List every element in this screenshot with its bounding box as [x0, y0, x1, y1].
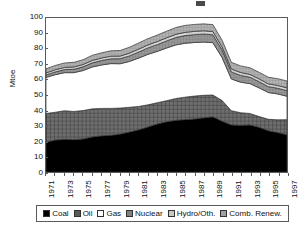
legend-label: Oil	[83, 210, 93, 218]
x-tick-mark	[213, 173, 214, 176]
x-tick-label: 1993	[254, 180, 262, 198]
x-tick-label: 1975	[85, 180, 93, 198]
x-tick-label: 1991	[235, 180, 243, 198]
x-tick-label: 1995	[272, 180, 280, 198]
x-tick-mark	[279, 173, 280, 176]
legend-swatch-icon	[97, 210, 104, 217]
legend-swatch-icon	[74, 210, 81, 217]
x-tick-mark	[120, 173, 121, 176]
legend-label: Gas	[106, 210, 121, 218]
x-tick-label: 1983	[160, 180, 168, 198]
y-tick-mark	[45, 157, 48, 158]
x-tick-label: 1979	[123, 180, 131, 198]
x-tick-mark	[260, 173, 261, 176]
legend-item-coal[interactable]: Coal	[43, 210, 68, 218]
legend-swatch-icon	[220, 210, 227, 217]
y-tick-mark	[45, 126, 48, 127]
x-axis-tick-labels: 1971197319751977197919811983198519871989…	[0, 0, 305, 230]
legend-item-gas[interactable]: Gas	[97, 210, 121, 218]
y-tick-mark	[45, 142, 48, 143]
legend-label: Comb. Renew.	[229, 210, 281, 218]
legend-label: Coal	[52, 210, 68, 218]
legend-label: Hydro/Oth.	[177, 210, 216, 218]
x-tick-mark	[167, 173, 168, 176]
x-tick-label: 1971	[48, 180, 56, 198]
legend-item-hydro-oth[interactable]: Hydro/Oth.	[168, 210, 216, 218]
x-tick-label: 1997	[291, 180, 299, 198]
x-tick-mark	[101, 173, 102, 176]
y-tick-mark	[45, 17, 48, 18]
legend-label: Nuclear	[135, 210, 163, 218]
x-tick-mark	[251, 173, 252, 176]
x-tick-mark	[73, 173, 74, 176]
chart-legend: CoalOilGasNuclearHydro/Oth.Comb. Renew.	[36, 205, 289, 222]
x-tick-mark	[232, 173, 233, 176]
x-tick-label: 1985	[179, 180, 187, 198]
x-tick-mark	[157, 173, 158, 176]
x-tick-label: 1981	[141, 180, 149, 198]
y-tick-mark	[45, 111, 48, 112]
x-tick-mark	[129, 173, 130, 176]
x-tick-mark	[110, 173, 111, 176]
x-tick-mark	[195, 173, 196, 176]
legend-swatch-icon	[168, 210, 175, 217]
x-tick-mark	[288, 173, 289, 176]
x-tick-mark	[223, 173, 224, 176]
x-tick-mark	[54, 173, 55, 176]
legend-swatch-icon	[126, 210, 133, 217]
x-tick-mark	[176, 173, 177, 176]
x-tick-label: 1987	[198, 180, 206, 198]
legend-item-nuclear[interactable]: Nuclear	[126, 210, 163, 218]
y-tick-mark	[45, 33, 48, 34]
x-tick-mark	[148, 173, 149, 176]
x-tick-mark	[82, 173, 83, 176]
x-tick-mark	[204, 173, 205, 176]
x-tick-label: 1989	[216, 180, 224, 198]
x-tick-mark	[185, 173, 186, 176]
y-tick-mark	[45, 95, 48, 96]
x-tick-mark	[241, 173, 242, 176]
y-tick-mark	[45, 79, 48, 80]
legend-item-comb-renew[interactable]: Comb. Renew.	[220, 210, 281, 218]
x-tick-label: 1973	[67, 180, 75, 198]
chart-figure: Mtoe 0102030405060708090100	[0, 0, 305, 230]
legend-item-oil[interactable]: Oil	[74, 210, 93, 218]
x-tick-label: 1977	[104, 180, 112, 198]
x-tick-mark	[138, 173, 139, 176]
y-tick-mark	[45, 48, 48, 49]
x-tick-mark	[269, 173, 270, 176]
y-tick-mark	[45, 64, 48, 65]
y-tick-mark	[45, 173, 48, 174]
x-tick-mark	[92, 173, 93, 176]
x-tick-mark	[64, 173, 65, 176]
legend-swatch-icon	[43, 210, 50, 217]
